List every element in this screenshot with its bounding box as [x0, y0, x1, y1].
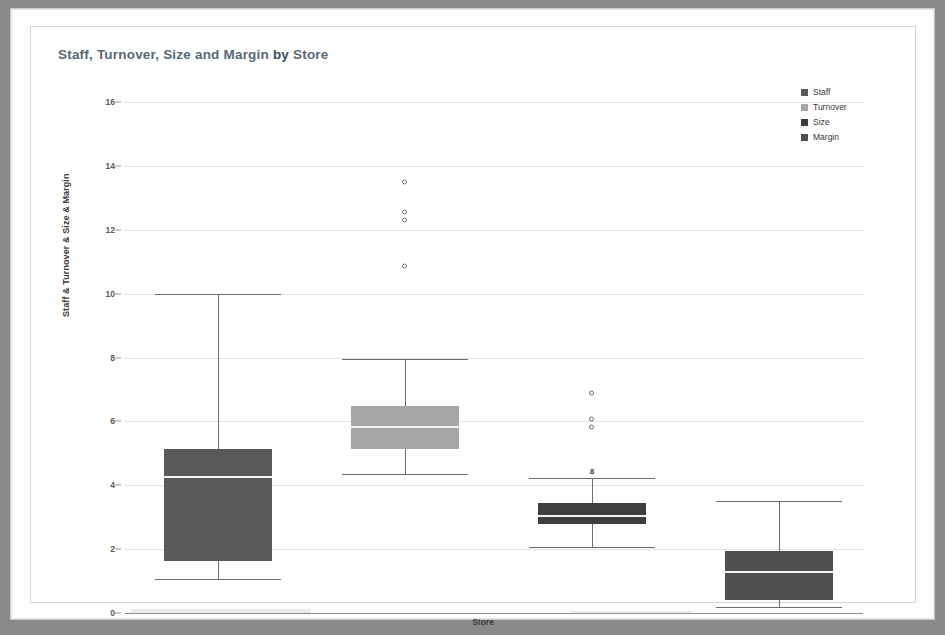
y-tick-mark [115, 229, 121, 230]
y-tick-label: 16 [89, 97, 115, 107]
lower-whisker-cap [155, 579, 280, 580]
y-tick-label: 8 [89, 353, 115, 363]
upper-whisker-cap [716, 501, 841, 502]
median-line [164, 476, 272, 478]
plot-area: Staff & Turnover & Size & Margin 0246810… [103, 82, 863, 627]
lower-whisker-cap [716, 607, 841, 608]
box-plot-group[interactable] [725, 82, 833, 627]
box-iqr-rect[interactable] [164, 449, 272, 561]
outlier-point[interactable] [402, 179, 407, 184]
chart-title-lead: Staff, Turnover, Size and Margin [58, 47, 269, 62]
outlier-point[interactable] [589, 425, 594, 430]
y-axis-title: Staff & Turnover & Size & Margin [61, 173, 71, 317]
box-iqr-rect[interactable] [538, 503, 646, 524]
upper-whisker-cap [155, 294, 280, 295]
screenshot-root: Staff, Turnover, Size and Margin by Stor… [0, 0, 945, 635]
y-tick-mark [115, 613, 121, 614]
y-tick-label: 14 [89, 161, 115, 171]
box-iqr-rect[interactable] [725, 551, 833, 599]
outlier-point[interactable] [402, 210, 407, 215]
chart-title-by: by [273, 47, 289, 62]
upper-whisker-cap [529, 478, 654, 479]
y-tick-mark [115, 485, 121, 486]
y-tick-label: 4 [89, 480, 115, 490]
data-point-label: 8 [589, 467, 595, 476]
lower-whisker-cap [342, 474, 467, 475]
y-tick-mark [115, 102, 121, 103]
scan-artifact [571, 611, 691, 614]
y-tick-mark [115, 421, 121, 422]
box-plot-group[interactable] [164, 82, 272, 627]
y-tick-label: 2 [89, 544, 115, 554]
outlier-point[interactable] [589, 417, 594, 422]
outlier-point[interactable] [589, 391, 594, 396]
median-line [351, 426, 459, 428]
y-tick-mark [115, 293, 121, 294]
chart-title: Staff, Turnover, Size and Margin by Stor… [58, 47, 329, 62]
y-tick-label: 10 [89, 289, 115, 299]
y-tick-mark [115, 165, 121, 166]
lower-whisker-stem [779, 600, 780, 608]
y-tick-label: 12 [89, 225, 115, 235]
y-tick-mark [115, 549, 121, 550]
lower-whisker-stem [592, 524, 593, 547]
median-line [538, 515, 646, 517]
y-tick-mark [115, 357, 121, 358]
outlier-point[interactable] [402, 218, 407, 223]
box-plot-group[interactable]: 8 [538, 82, 646, 627]
chart-container: Staff, Turnover, Size and Margin by Stor… [30, 26, 916, 603]
upper-whisker-stem [779, 501, 780, 552]
outlier-point[interactable] [402, 264, 407, 269]
median-line [725, 571, 833, 573]
box-plot-group[interactable] [351, 82, 459, 627]
upper-whisker-cap [342, 359, 467, 360]
y-tick-label: 6 [89, 416, 115, 426]
lower-whisker-stem [218, 561, 219, 580]
scan-artifact [131, 609, 311, 613]
x-axis-title: Store [103, 617, 863, 627]
upper-whisker-stem [592, 478, 593, 503]
lower-whisker-cap [529, 547, 654, 548]
scanned-page: Staff, Turnover, Size and Margin by Stor… [10, 8, 935, 620]
upper-whisker-stem [405, 359, 406, 406]
lower-whisker-stem [405, 449, 406, 474]
chart-title-trail: Store [293, 47, 329, 62]
upper-whisker-stem [218, 294, 219, 450]
